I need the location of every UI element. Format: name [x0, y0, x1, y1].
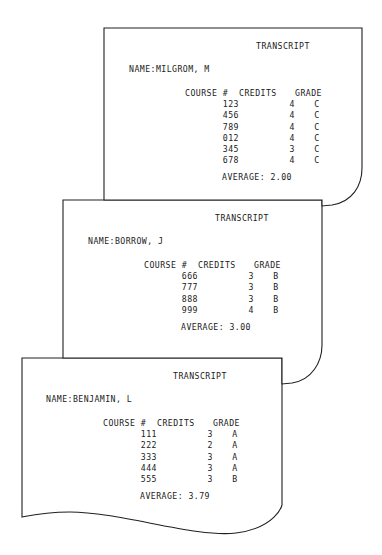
table-header-row: COURSE # CREDITS GRADE — [185, 88, 339, 99]
cell-credits: 4 — [239, 110, 295, 121]
table-header-row: COURSE # CREDITS GRADE — [103, 418, 257, 429]
table-row: 888 3 B — [144, 294, 298, 305]
student-name-line: NAME:MILGROM, M — [129, 64, 210, 74]
table-row: 666 3 B — [144, 271, 298, 282]
cell-course: 012 — [185, 133, 239, 144]
table-row: 012 4 C — [185, 133, 339, 144]
cell-grade: B — [213, 474, 257, 485]
table-row: 555 3 B — [103, 474, 257, 485]
cell-grade: C — [295, 144, 339, 155]
cell-course: 888 — [144, 294, 198, 305]
cell-course: 123 — [185, 99, 239, 110]
table-row: 456 4 C — [185, 110, 339, 121]
cell-course: 333 — [103, 452, 157, 463]
transcript-stack: TRANSCRIPT NAME:MILGROM, M COURSE # CRED… — [0, 0, 382, 555]
cell-credits: 3 — [198, 294, 254, 305]
cell-credits: 3 — [239, 144, 295, 155]
table-row: 123 4 C — [185, 99, 339, 110]
column-header-course: COURSE # — [185, 88, 239, 99]
cell-course: 777 — [144, 282, 198, 293]
cell-grade: C — [295, 99, 339, 110]
cell-credits: 4 — [239, 122, 295, 133]
cell-course: 345 — [185, 144, 239, 155]
cell-grade: B — [254, 294, 298, 305]
cell-credits: 4 — [198, 305, 254, 316]
table-row: 444 3 A — [103, 463, 257, 474]
column-header-course: COURSE # — [103, 418, 157, 429]
table-row: 678 4 C — [185, 155, 339, 166]
table-row: 345 3 C — [185, 144, 339, 155]
table-row: 999 4 B — [144, 305, 298, 316]
student-name-line: NAME:BENJAMIN, L — [46, 394, 132, 404]
page-title: TRANSCRIPT — [173, 371, 227, 381]
table-row: 777 3 B — [144, 282, 298, 293]
cell-grade: C — [295, 122, 339, 133]
cell-credits: 4 — [239, 133, 295, 144]
cell-credits: 4 — [239, 155, 295, 166]
table-row: 789 4 C — [185, 122, 339, 133]
cell-grade: B — [254, 271, 298, 282]
table-header-row: COURSE # CREDITS GRADE — [144, 260, 298, 271]
cell-credits: 3 — [157, 429, 213, 440]
student-name-line: NAME:BORROW, J — [88, 236, 163, 246]
cell-course: 999 — [144, 305, 198, 316]
cell-course: 111 — [103, 429, 157, 440]
cell-course: 789 — [185, 122, 239, 133]
column-header-grade: GRADE — [295, 88, 339, 99]
cell-course: 666 — [144, 271, 198, 282]
average-line: AVERAGE: 3.79 — [140, 491, 210, 501]
cell-grade: C — [295, 110, 339, 121]
cell-grade: A — [213, 440, 257, 451]
cell-course: 456 — [185, 110, 239, 121]
cell-credits: 3 — [157, 463, 213, 474]
cell-grade: A — [213, 429, 257, 440]
cell-grade: B — [254, 305, 298, 316]
cell-grade: A — [213, 463, 257, 474]
average-line: AVERAGE: 3.00 — [181, 322, 251, 332]
table-row: 111 3 A — [103, 429, 257, 440]
cell-course: 222 — [103, 440, 157, 451]
page-title: TRANSCRIPT — [215, 213, 269, 223]
column-header-course: COURSE # — [144, 260, 198, 271]
table-row: 333 3 A — [103, 452, 257, 463]
column-header-credits: CREDITS — [157, 418, 213, 429]
column-header-grade: GRADE — [254, 260, 298, 271]
cell-grade: A — [213, 452, 257, 463]
grades-table: COURSE # CREDITS GRADE 111 3 A 222 2 A 3… — [103, 418, 257, 485]
cell-grade: C — [295, 133, 339, 144]
cell-course: 444 — [103, 463, 157, 474]
cell-grade: B — [254, 282, 298, 293]
table-row: 222 2 A — [103, 440, 257, 451]
column-header-grade: GRADE — [213, 418, 257, 429]
cell-grade: C — [295, 155, 339, 166]
cell-credits: 2 — [157, 440, 213, 451]
average-line: AVERAGE: 2.00 — [222, 172, 292, 182]
cell-credits: 3 — [157, 452, 213, 463]
grades-table: COURSE # CREDITS GRADE 666 3 B 777 3 B 8… — [144, 260, 298, 316]
column-header-credits: CREDITS — [198, 260, 254, 271]
column-header-credits: CREDITS — [239, 88, 295, 99]
cell-course: 555 — [103, 474, 157, 485]
cell-course: 678 — [185, 155, 239, 166]
grades-table: COURSE # CREDITS GRADE 123 4 C 456 4 C 7… — [185, 88, 339, 166]
page-title: TRANSCRIPT — [256, 41, 310, 51]
cell-credits: 3 — [198, 271, 254, 282]
cell-credits: 3 — [157, 474, 213, 485]
cell-credits: 3 — [198, 282, 254, 293]
cell-credits: 4 — [239, 99, 295, 110]
